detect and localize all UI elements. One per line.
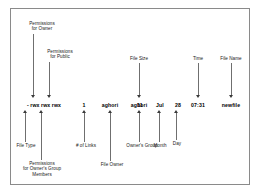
connector-owners-group [139, 113, 140, 142]
label-time: Time [183, 56, 213, 61]
arrowhead-permissions-for-owner [31, 95, 35, 98]
label-file-name: File Name [213, 56, 249, 61]
connector-permissions-for-public [49, 62, 50, 95]
label-file-type: File Type [10, 143, 43, 148]
label-file-size: File Size [119, 56, 159, 61]
connector-permissions-for-owner [33, 34, 34, 95]
token-time: 07:31 [184, 102, 212, 108]
token-file-owner: aghori [95, 102, 125, 108]
connector-time [198, 63, 199, 95]
label-permissions-for-owner: Permissions for Owner [17, 21, 67, 32]
arrowhead-permissions-for-public [47, 95, 51, 98]
token-permissions: - rwx rwx rwx [14, 102, 74, 108]
connector-month [159, 113, 160, 142]
label-file-owner: File Owner [94, 162, 130, 167]
arrowhead-time [196, 95, 200, 98]
arrowhead-file-size [137, 95, 141, 98]
token-month: Jul [150, 102, 170, 108]
connector-permissions-group [41, 113, 42, 160]
label-permissions-for-owners-group-members: Permissions for Owner's Group Members [15, 161, 69, 177]
label-number-of-links: # of Links [69, 143, 103, 148]
label-day: Day [165, 141, 189, 146]
connector-number-of-links [84, 113, 85, 142]
connector-file-name [231, 63, 232, 95]
token-file-size: 11 [129, 102, 151, 108]
label-permissions-for-public: Permissions for Public [34, 49, 86, 60]
connector-file-size [139, 63, 140, 95]
connector-day [176, 113, 177, 140]
token-number-of-links: 1 [73, 102, 95, 108]
connector-file-owner [110, 113, 111, 161]
connector-file-type [25, 113, 26, 142]
arrowhead-file-name [229, 95, 233, 98]
diagram-frame: Permissions for Owner Permissions for Pu… [10, 8, 250, 185]
token-file-name: newfile [216, 102, 246, 108]
